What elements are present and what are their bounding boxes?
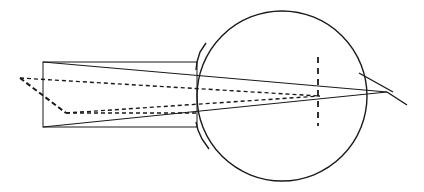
diagram-background <box>0 0 424 192</box>
optical-ray-diagram <box>0 0 424 192</box>
diagram-canvas <box>0 0 424 192</box>
